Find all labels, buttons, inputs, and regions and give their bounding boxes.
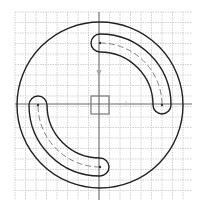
outer-circle[interactable] [17,22,183,188]
origin-marker[interactable] [91,96,109,114]
lower-left-slot-start-point[interactable] [99,166,101,168]
outer-circle-path[interactable] [17,22,183,188]
origin-box[interactable] [91,96,109,114]
slots[interactable] [29,34,171,176]
grid [15,12,192,200]
sketch-svg [0,0,198,214]
coordinate-axes [15,12,192,200]
upper-right-slot-end-point[interactable] [161,104,163,106]
lower-left-slot-end-point[interactable] [37,104,39,106]
cad-sketch-canvas[interactable] [0,0,198,214]
upper-right-slot-start-point[interactable] [99,42,101,44]
